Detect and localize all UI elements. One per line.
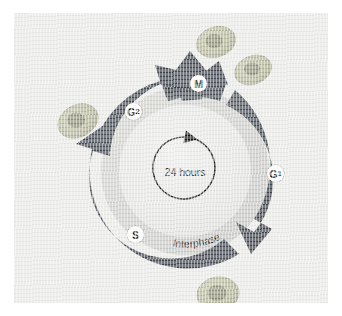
cell-left — [52, 97, 104, 145]
phase-label-s[interactable]: S — [127, 226, 144, 243]
cell-layer — [14, 13, 328, 303]
cell-bottom — [195, 274, 241, 303]
phase-label-g2[interactable]: G2 — [125, 103, 142, 120]
diagram-stage: Division Interphase — [14, 13, 328, 303]
cycle-duration-label: 24 hours — [14, 166, 328, 178]
phase-label-m[interactable]: M — [190, 75, 207, 92]
cell-cycle-figure: Division Interphase — [0, 0, 342, 316]
figure-panel: Division Interphase — [14, 13, 328, 303]
daughter-cell-right — [230, 50, 276, 90]
daughter-cell-left — [192, 22, 239, 63]
